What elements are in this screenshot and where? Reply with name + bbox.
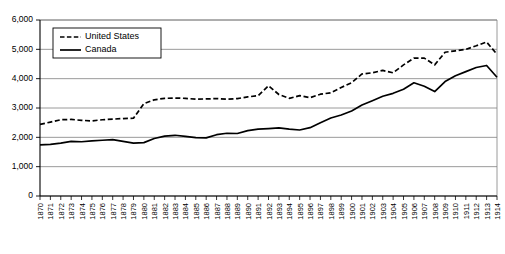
- x-axis-label: 1912: [472, 203, 481, 220]
- y-axis-label: 6,000: [12, 14, 34, 24]
- x-axis-label: 1888: [223, 203, 232, 220]
- y-axis-label: 2,000: [12, 132, 34, 142]
- x-axis-label: 1901: [358, 203, 367, 220]
- x-axis-label: 1875: [88, 203, 97, 220]
- x-axis-label: 1874: [78, 203, 87, 220]
- legend-label: Canada: [85, 44, 117, 54]
- x-axis-label: 1885: [192, 203, 201, 220]
- line-chart: 01,0002,0003,0004,0005,0006,000187018711…: [0, 0, 505, 254]
- x-axis-label: 1907: [420, 203, 429, 220]
- x-axis-label: 1896: [306, 203, 315, 220]
- x-axis-label: 1876: [98, 203, 107, 220]
- x-axis-label: 1902: [368, 203, 377, 220]
- x-axis-label: 1905: [400, 203, 409, 220]
- series-line-canada: [40, 65, 497, 144]
- x-axis-label: 1892: [265, 203, 274, 220]
- x-axis-label: 1904: [389, 203, 398, 220]
- x-axis-label: 1908: [431, 203, 440, 220]
- x-axis-label: 1913: [483, 203, 492, 220]
- y-axis-label: 1,000: [12, 161, 34, 171]
- y-axis-label: 0: [28, 190, 33, 200]
- x-axis-label: 1877: [109, 203, 118, 220]
- x-axis-label: 1871: [46, 203, 55, 220]
- chart-canvas: 01,0002,0003,0004,0005,0006,000187018711…: [0, 0, 505, 254]
- y-axis-label: 3,000: [12, 102, 34, 112]
- x-axis-label: 1878: [119, 203, 128, 220]
- x-axis-label: 1906: [410, 203, 419, 220]
- x-axis-label: 1889: [233, 203, 242, 220]
- x-axis-label: 1914: [493, 203, 502, 220]
- x-axis-label: 1895: [296, 203, 305, 220]
- legend-label: United States: [85, 31, 140, 41]
- x-axis-label: 1883: [171, 203, 180, 220]
- x-axis-label: 1911: [462, 203, 471, 219]
- x-axis-label: 1873: [67, 203, 76, 220]
- x-axis-label: 1884: [181, 203, 190, 220]
- x-axis-label: 1894: [285, 203, 294, 220]
- x-axis-label: 1880: [140, 203, 149, 220]
- x-axis-label: 1891: [254, 203, 263, 220]
- x-axis-label: 1870: [36, 203, 45, 220]
- x-axis-label: 1900: [348, 203, 357, 220]
- x-axis-label: 1881: [150, 203, 159, 220]
- y-axis-label: 4,000: [12, 73, 34, 83]
- x-axis-label: 1893: [275, 203, 284, 220]
- x-axis-label: 1898: [327, 203, 336, 220]
- y-axis-label: 5,000: [12, 44, 34, 54]
- x-axis-label: 1872: [57, 203, 66, 220]
- x-axis-label: 1910: [451, 203, 460, 220]
- x-axis-label: 1886: [202, 203, 211, 220]
- x-axis-label: 1879: [129, 203, 138, 220]
- x-axis-label: 1903: [379, 203, 388, 220]
- x-axis-label: 1909: [441, 203, 450, 220]
- x-axis-label: 1890: [244, 203, 253, 220]
- x-axis-label: 1887: [213, 203, 222, 220]
- x-axis-label: 1899: [337, 203, 346, 220]
- x-axis-label: 1882: [161, 203, 170, 220]
- x-axis-label: 1897: [316, 203, 325, 220]
